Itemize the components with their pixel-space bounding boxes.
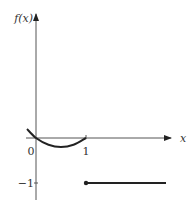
x-axis-label: x (180, 132, 187, 145)
closed-endpoint (84, 181, 88, 185)
y-tick-label: −1 (18, 177, 34, 190)
y-axis-label: f(x) (13, 12, 33, 25)
origin-label: 0 (28, 145, 35, 158)
x-tick-label: 1 (83, 145, 90, 158)
piecewise-function-chart: x f(x) 0 1−1 (0, 0, 195, 211)
